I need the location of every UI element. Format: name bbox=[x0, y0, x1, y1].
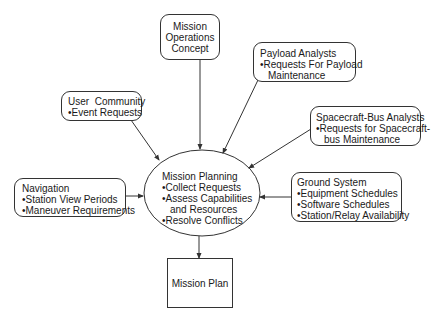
node-bullet-continuation: and Resources bbox=[162, 204, 252, 215]
node-title: Navigation bbox=[22, 183, 125, 194]
navigation-node: Navigation Station View Periods Maneuver… bbox=[14, 178, 126, 217]
node-bullet: Event Requests bbox=[68, 107, 141, 118]
node-line: Concept bbox=[171, 43, 208, 54]
edge-user-community-to-planning bbox=[131, 120, 159, 160]
node-bullet-continuation: Maintenance bbox=[260, 70, 355, 81]
node-line: Operations bbox=[166, 32, 215, 43]
ground-system-node: Ground System Equipment Schedules Softwa… bbox=[291, 172, 402, 222]
node-bullet: Requests for Spacecraft- bbox=[316, 123, 420, 134]
node-line: Mission bbox=[173, 21, 207, 32]
node-bullet-continuation: bus Maintenance bbox=[316, 134, 420, 145]
node-label: Mission Plan bbox=[172, 278, 229, 289]
mission-planning-node: Mission Planning Collect Requests Assess… bbox=[162, 171, 252, 226]
mission-operations-concept-node: Mission Operations Concept bbox=[160, 14, 220, 60]
node-title: User Community bbox=[68, 96, 141, 107]
spacecraft-bus-analysts-node: Spacecraft-Bus Analysts Requests for Spa… bbox=[310, 106, 421, 146]
node-bullet: Station/Relay Availability bbox=[297, 210, 401, 221]
node-bullet: Software Schedules bbox=[297, 199, 401, 210]
node-title: Ground System bbox=[297, 177, 401, 188]
mission-plan-node: Mission Plan bbox=[167, 258, 233, 308]
node-title: Payload Analysts bbox=[260, 48, 355, 59]
node-title: Spacecraft-Bus Analysts bbox=[316, 112, 420, 123]
node-title: Mission Planning bbox=[162, 171, 252, 182]
node-bullet: Collect Requests bbox=[162, 182, 252, 193]
node-bullet: Equipment Schedules bbox=[297, 188, 401, 199]
payload-analysts-node: Payload Analysts Requests For Payload Ma… bbox=[253, 42, 356, 82]
node-bullet: Maneuver Requirements bbox=[22, 205, 125, 216]
node-bullet: Assess Capabilities bbox=[162, 193, 252, 204]
node-bullet: Requests For Payload bbox=[260, 59, 355, 70]
node-bullet: Resolve Conflicts bbox=[162, 215, 252, 226]
user-community-node: User Community Event Requests bbox=[61, 91, 142, 121]
edge-spacecraft-bus-to-planning bbox=[249, 129, 311, 168]
node-bullet: Station View Periods bbox=[22, 194, 125, 205]
edge-payload-to-planning bbox=[223, 80, 258, 153]
